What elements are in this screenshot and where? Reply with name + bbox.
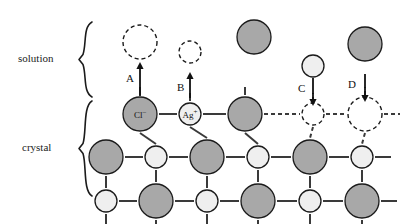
solution-ion-a-target <box>123 25 157 59</box>
lattice-ion-anion-r1-c3 <box>293 140 327 174</box>
lattice-ion-anion-r0-c2 <box>228 97 262 131</box>
diagram-svg <box>0 0 416 224</box>
bond-v-0-4 <box>362 133 365 144</box>
lattice-ion-anion-r1-c1 <box>190 140 224 174</box>
lattice-ion-anion-r1-c-1 <box>89 140 123 174</box>
arrow-label-D: D <box>348 78 356 90</box>
arrow-head-A <box>136 62 143 69</box>
arrow-head-D <box>361 95 368 102</box>
brace-group <box>79 22 92 196</box>
lattice-ion-anion-r2-c0 <box>139 184 173 218</box>
lattice-ion-anion-r0-c4 <box>348 97 382 131</box>
arrow-label-C: C <box>298 82 305 94</box>
lattice-ion-cation-r1-c2 <box>247 146 269 168</box>
solution-ion-free-anion <box>237 20 271 54</box>
brace-solution <box>79 22 92 97</box>
ion-group <box>89 20 382 218</box>
lattice-ion-cation-r0-c3 <box>302 103 324 125</box>
lattice-ion-cation-r1-c4 <box>351 146 373 168</box>
bond-v-0-2 <box>245 133 258 144</box>
solution-ion-d-source <box>348 27 382 61</box>
bond-v-0-0 <box>140 133 156 144</box>
arrow-label-B: B <box>177 81 184 93</box>
region-label-crystal: crystal <box>22 141 51 153</box>
solution-ion-c-source <box>302 55 324 77</box>
diagram-canvas: solution crystal ABCD Cl–Ag+ <box>0 0 416 224</box>
solution-ion-b-target <box>179 41 201 63</box>
lattice-ion-cation-r2-c-1 <box>95 190 117 212</box>
lattice-ion-cation-r2-c3 <box>299 190 321 212</box>
arrow-label-A: A <box>126 72 134 84</box>
lattice-ion-cation-r0-c1 <box>179 103 201 125</box>
brace-crystal <box>79 101 92 196</box>
lattice-ion-anion-r2-c2 <box>241 184 275 218</box>
lattice-ion-anion-r0-c0 <box>123 97 157 131</box>
arrow-head-C <box>309 99 316 106</box>
lattice-ion-anion-r2-c4 <box>345 184 379 218</box>
bond-v-0-1 <box>190 127 207 138</box>
arrow-head-B <box>186 72 193 79</box>
lattice-ion-cation-r2-c1 <box>196 190 218 212</box>
region-label-solution: solution <box>18 52 53 64</box>
lattice-ion-cation-r1-c0 <box>145 146 167 168</box>
bond-v-0-3 <box>310 127 313 138</box>
